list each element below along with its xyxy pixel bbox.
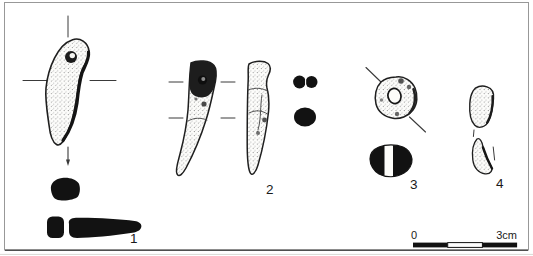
artifact-1-section-upper bbox=[51, 178, 80, 201]
artifact-3-mottle-1 bbox=[398, 78, 404, 84]
artifact-1-section-square bbox=[47, 217, 64, 239]
artifact-2-left-mottle-2 bbox=[194, 97, 197, 100]
artifact-2-section-lobe-right bbox=[306, 76, 318, 88]
artifact-1-perforation-hole bbox=[70, 53, 75, 58]
figure-drawing: 1 2 bbox=[0, 0, 533, 256]
artifact-2-right-mottle-1 bbox=[262, 118, 267, 123]
artifact-3-mottle-4 bbox=[380, 98, 384, 102]
artifact-2-label: 2 bbox=[266, 182, 274, 197]
artifact-1-label: 1 bbox=[130, 231, 138, 246]
scale-bar-start-label: 0 bbox=[411, 229, 417, 241]
artifact-3-label: 3 bbox=[410, 177, 418, 192]
artifact-3-mottle-2 bbox=[407, 85, 411, 89]
artifact-2-perforation-hole bbox=[201, 77, 205, 81]
artifact-2-section-lobe-left bbox=[293, 76, 306, 89]
scale-bar-segment-1 bbox=[413, 243, 448, 248]
figure-plate: 1 2 bbox=[0, 0, 533, 256]
artifact-2-section-oval bbox=[294, 108, 316, 127]
artifact-3-section-band bbox=[385, 143, 394, 180]
artifact-4-tick bbox=[473, 130, 474, 137]
artifact-2-right-mottle-2 bbox=[256, 131, 260, 135]
scale-bar-end-label: 3cm bbox=[496, 229, 517, 241]
scale-bar-segment-3 bbox=[482, 243, 517, 248]
artifact-3-mottle-3 bbox=[395, 112, 399, 116]
artifact-4-label: 4 bbox=[496, 176, 504, 191]
artifact-2-left-mottle-1 bbox=[201, 101, 206, 106]
scale-bar-segment-2 bbox=[448, 243, 483, 248]
